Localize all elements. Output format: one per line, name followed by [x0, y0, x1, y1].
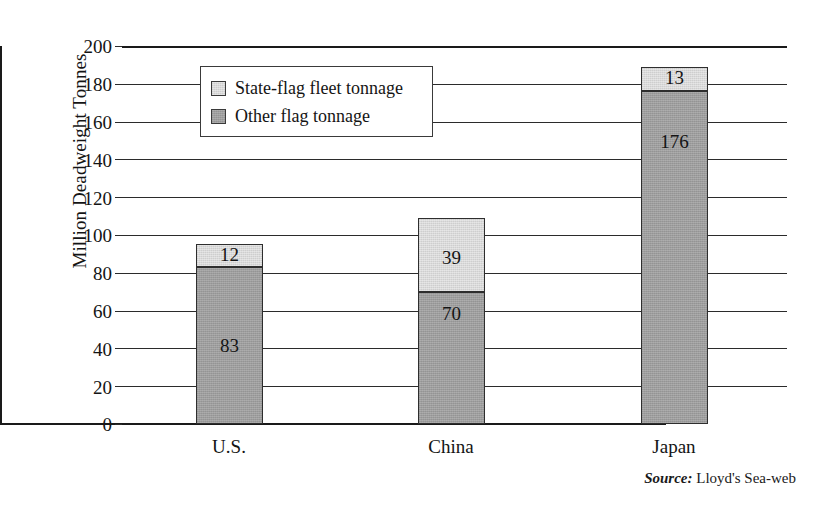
y-tick-180: [115, 84, 122, 85]
y-tick-label-100: 100: [0, 226, 112, 245]
bar-value-china-other-flag: 70: [442, 303, 461, 325]
legend-label-other-flag: Other flag tonnage: [235, 106, 370, 127]
y-tick-label-60: 60: [0, 302, 112, 321]
y-tick-label-40: 40: [0, 340, 112, 359]
y-tick-60: [115, 311, 122, 312]
y-tick-200: [115, 46, 122, 47]
y-tick-100: [115, 235, 122, 236]
legend-label-state-flag: State-flag fleet tonnage: [235, 78, 403, 99]
y-tick-140: [115, 159, 122, 160]
bar-value-us-state-flag: 12: [220, 244, 239, 266]
chart-legend: State-flag fleet tonnage Other flag tonn…: [200, 66, 433, 137]
y-tick-label-140: 140: [0, 151, 112, 170]
y-axis-line: [0, 46, 2, 425]
source-note-text: Lloyd's Sea-web: [696, 470, 796, 486]
y-tick-120: [115, 197, 122, 198]
bar-segment-us-other-flag[interactable]: 83: [196, 267, 263, 424]
bar-group-japan[interactable]: 176 13: [641, 46, 708, 424]
y-tick-20: [115, 386, 122, 387]
bar-value-us-other-flag: 83: [220, 335, 239, 357]
x-category-label-china: China: [371, 436, 531, 458]
bar-segment-china-state-flag[interactable]: 39: [418, 218, 485, 292]
legend-item-other-flag[interactable]: Other flag tonnage: [211, 102, 432, 130]
y-tick-label-80: 80: [0, 264, 112, 283]
source-note-prefix: Source:: [644, 470, 692, 486]
y-tick-label-120: 120: [0, 189, 112, 208]
bar-value-japan-other-flag: 176: [660, 131, 689, 153]
chart-figure: Million Deadweight Tonnes 200 180 160 14…: [0, 0, 818, 517]
legend-swatch-state-flag-icon: [211, 81, 226, 96]
legend-swatch-other-flag-icon: [211, 109, 226, 124]
bar-value-japan-state-flag: 13: [665, 67, 684, 89]
x-category-label-japan: Japan: [594, 436, 754, 458]
y-tick-80: [115, 273, 122, 274]
x-category-label-us: U.S.: [149, 436, 309, 458]
y-tick-160: [115, 122, 122, 123]
y-tick-0: [115, 424, 122, 425]
bar-segment-japan-other-flag[interactable]: 176: [641, 91, 708, 424]
source-note: Source: Lloyd's Sea-web: [644, 470, 796, 487]
y-tick-label-160: 160: [0, 113, 112, 132]
y-tick-label-20: 20: [0, 378, 112, 397]
y-tick-40: [115, 348, 122, 349]
bar-segment-us-state-flag[interactable]: 12: [196, 244, 263, 267]
bar-value-china-state-flag: 39: [442, 247, 461, 269]
y-tick-label-180: 180: [0, 75, 112, 94]
legend-item-state-flag[interactable]: State-flag fleet tonnage: [211, 74, 432, 102]
y-tick-label-200: 200: [0, 37, 112, 56]
bar-segment-china-other-flag[interactable]: 70: [418, 292, 485, 424]
bar-segment-japan-state-flag[interactable]: 13: [641, 67, 708, 92]
